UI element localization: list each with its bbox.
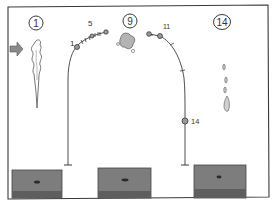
container-box-right: [194, 165, 246, 198]
trajectory-point-1: [75, 45, 80, 50]
trajectory-point-5: [90, 34, 94, 38]
svg-text:9: 9: [127, 16, 133, 27]
cloud-puff-icon: [117, 33, 135, 52]
point-label-11: 11: [163, 23, 170, 30]
droplets-icon: [223, 64, 230, 111]
step-badge-1: 1: [29, 16, 43, 30]
svg-text:1: 1: [33, 18, 39, 29]
container-box-center: [98, 168, 151, 198]
container-box-left: [12, 170, 62, 198]
trajectory-right: 11 14: [147, 23, 200, 165]
point-label-14: 14: [191, 117, 199, 126]
diagram-canvas: 1 9 14 1 5: [0, 0, 276, 205]
trajectory-point-11: [158, 34, 163, 39]
point-label-1: 1: [70, 39, 75, 48]
trajectory-point-14: [182, 118, 188, 124]
step-badge-9: 9: [123, 14, 137, 28]
trajectory-left: 1 5: [64, 19, 108, 165]
arrow-right-icon: [10, 42, 23, 56]
point-label-5: 5: [88, 19, 93, 28]
svg-text:14: 14: [216, 17, 228, 28]
step-badge-14: 14: [214, 15, 231, 30]
